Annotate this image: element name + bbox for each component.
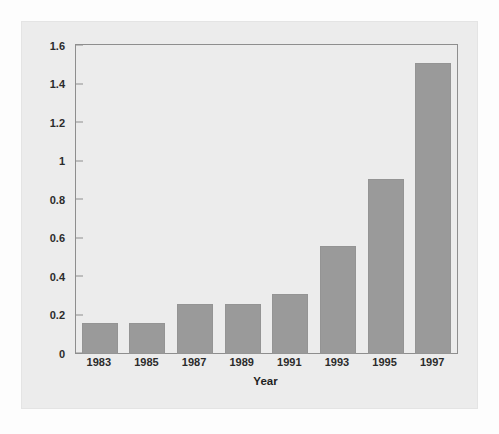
x-tick-label: 1987 <box>170 356 218 368</box>
bar-slot <box>76 45 124 353</box>
chart-panel: Millions of Children 00.20.40.60.811.21.… <box>22 22 477 408</box>
y-tick-label: 0.6 <box>50 232 69 244</box>
x-axis-ticks: 19831985198719891991199319951997 <box>75 356 456 368</box>
bar[interactable] <box>321 247 355 353</box>
y-tick-label: 0 <box>59 347 69 359</box>
x-tick-label: 1983 <box>75 356 123 368</box>
x-tick-label: 1995 <box>361 356 409 368</box>
x-tick-label: 1997 <box>408 356 456 368</box>
bar-slot <box>314 45 362 353</box>
bar-slot <box>171 45 219 353</box>
bar-slot <box>362 45 410 353</box>
bar[interactable] <box>130 324 164 353</box>
y-tick-label: 0.8 <box>50 193 69 205</box>
bar-slot <box>267 45 315 353</box>
bar-slot <box>219 45 267 353</box>
bar-slot <box>124 45 172 353</box>
bar-series <box>76 45 457 353</box>
bar-slot <box>409 45 457 353</box>
x-tick-label: 1991 <box>266 356 314 368</box>
y-tick-label: 0.4 <box>50 270 69 282</box>
plot-area: 00.20.40.60.811.21.41.6 <box>75 44 458 354</box>
bar[interactable] <box>226 305 260 353</box>
y-tick-label: 1.2 <box>50 116 69 128</box>
x-tick-label: 1989 <box>218 356 266 368</box>
x-tick-label: 1985 <box>123 356 171 368</box>
bar[interactable] <box>83 324 117 353</box>
bar[interactable] <box>178 305 212 353</box>
x-axis-title: Year <box>75 375 456 387</box>
x-tick-label: 1993 <box>313 356 361 368</box>
bar[interactable] <box>273 295 307 353</box>
figure-root: Millions of Children 00.20.40.60.811.21.… <box>0 0 499 434</box>
y-tick-label: 1 <box>59 155 69 167</box>
y-tick-label: 0.2 <box>50 309 69 321</box>
y-tick-label: 1.4 <box>50 78 69 90</box>
y-tick-label: 1.6 <box>50 39 69 51</box>
bar[interactable] <box>416 64 450 353</box>
bar[interactable] <box>369 180 403 353</box>
